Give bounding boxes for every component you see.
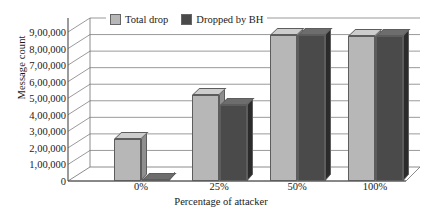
bar-front-face: [270, 35, 297, 181]
bar: [348, 36, 375, 181]
x-axis-tick-label: 100%: [345, 181, 405, 192]
bar: [298, 35, 325, 181]
bar-front-face: [298, 35, 325, 181]
bar: [114, 139, 141, 181]
bar-side-face: [141, 132, 147, 181]
bar-front-face: [192, 95, 219, 181]
bar-front-face: [220, 105, 247, 181]
bar-side-face: [325, 28, 331, 181]
x-axis-tick-label: 25%: [189, 181, 249, 192]
bar-front-face: [114, 139, 141, 181]
y-axis-tick-label: 2,00,000: [16, 142, 66, 153]
legend-swatch-icon: [181, 14, 192, 25]
legend-label: Total drop: [125, 14, 168, 25]
bar-side-face: [403, 29, 409, 181]
y-axis-tick-label: 4,00,000: [16, 109, 66, 120]
y-axis-tick-label: 3,00,000: [16, 126, 66, 137]
legend-entry: Dropped by BH: [181, 14, 263, 25]
y-axis-tick-label: 0: [16, 176, 66, 187]
x-axis-tick-label: 50%: [267, 181, 327, 192]
x-axis-tick-label: 0%: [111, 181, 171, 192]
chart-legend: Total dropDropped by BH: [106, 13, 267, 26]
x-axis-title: Percentage of attacker: [0, 196, 442, 207]
x-axis-tick-labels: 0%25%50%100%: [70, 181, 430, 197]
legend-swatch-icon: [110, 14, 121, 25]
y-axis-tick-label: 9,00,000: [16, 27, 66, 38]
plot-area: [68, 18, 420, 181]
y-axis-tick-label: 8,00,000: [16, 43, 66, 54]
bar-group-container: [68, 18, 420, 181]
bar: [376, 36, 403, 181]
legend-label: Dropped by BH: [196, 14, 263, 25]
chart-figure: Message count 01,00,0002,00,0003,00,0004…: [0, 0, 442, 219]
legend-entry: Total drop: [110, 14, 168, 25]
bar: [192, 95, 219, 181]
bar: [142, 180, 169, 181]
bar: [270, 35, 297, 181]
bar: [220, 105, 247, 181]
y-axis-tick-label: 6,00,000: [16, 76, 66, 87]
y-axis-tick-labels: 01,00,0002,00,0003,00,0004,00,0005,00,00…: [16, 18, 66, 181]
bar-front-face: [348, 36, 375, 181]
y-axis-tick-label: 5,00,000: [16, 93, 66, 104]
y-axis-tick-label: 7,00,000: [16, 60, 66, 71]
bar-side-face: [247, 98, 253, 181]
y-axis-tick-label: 1,00,000: [16, 159, 66, 170]
bar-top-face: [142, 173, 177, 180]
bar-front-face: [376, 36, 403, 181]
